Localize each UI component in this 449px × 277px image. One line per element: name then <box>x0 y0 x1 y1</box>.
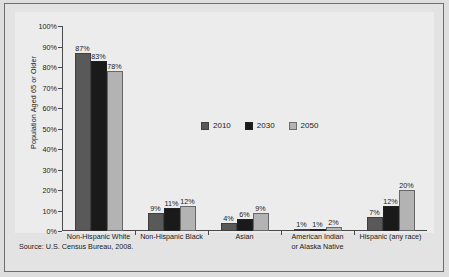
x-axis-tick-mark <box>354 231 355 235</box>
bar-value-label: 4% <box>223 214 233 223</box>
legend-swatch-icon <box>245 122 253 130</box>
bar-2010: 7% <box>367 217 383 231</box>
bar-value-label: 1% <box>312 220 322 229</box>
bar-group-bars: 9%11%12% <box>135 26 208 231</box>
legend-item-2050[interactable]: 2050 <box>289 121 319 130</box>
legend-item-2010[interactable]: 2010 <box>201 121 231 130</box>
bar-2010: 9% <box>148 213 164 231</box>
bar-2050: 2% <box>326 227 342 231</box>
bar-2010: 4% <box>221 223 237 231</box>
y-axis-tick-label: 90% <box>17 42 62 51</box>
bar-2030: 1% <box>310 229 326 231</box>
bar-2050: 12% <box>180 206 196 231</box>
y-axis-tick-label: 40% <box>17 145 62 154</box>
bar-group-bars: 87%83%78% <box>62 26 135 231</box>
y-axis-tick-label: 30% <box>17 165 62 174</box>
bar-group: 7%12%20%Hispanic (any race) <box>354 26 427 231</box>
bar-value-label: 2% <box>328 218 338 227</box>
legend-swatch-icon <box>289 122 297 130</box>
legend-label: 2010 <box>213 121 231 130</box>
chart-plot-panel: Population Aged 65 or Older 0%10%20%30%4… <box>15 12 434 233</box>
x-axis-category-label: Hispanic (any race) <box>336 232 446 242</box>
bar-2050: 78% <box>107 71 123 231</box>
bar-value-label: 12% <box>383 197 397 206</box>
legend-label: 2050 <box>301 121 319 130</box>
bar-2030: 83% <box>91 61 107 231</box>
bar-value-label: 12% <box>180 197 194 206</box>
y-axis-tick-label: 50% <box>17 124 62 133</box>
bar-value-label: 1% <box>296 220 306 229</box>
bar-2030: 12% <box>383 206 399 231</box>
y-axis-tick-label: 100% <box>17 22 62 31</box>
bar-value-label: 83% <box>91 52 105 61</box>
x-axis-category-line: Hispanic (any race) <box>336 232 446 242</box>
bar-value-label: 11% <box>165 199 179 208</box>
bar-value-label: 7% <box>369 208 379 217</box>
bar-value-label: 9% <box>255 204 265 213</box>
bar-value-label: 6% <box>239 210 249 219</box>
legend-label: 2030 <box>257 121 275 130</box>
x-axis-tick-mark <box>281 231 282 235</box>
y-axis-tick-label: 20% <box>17 186 62 195</box>
bar-value-label: 78% <box>107 62 121 71</box>
bar-2010: 1% <box>294 229 310 231</box>
source-note: Source: U.S. Census Bureau, 2008. <box>19 242 133 251</box>
y-axis-tick-label: 10% <box>17 206 62 215</box>
y-axis-tick-label: 70% <box>17 83 62 92</box>
bar-2030: 6% <box>237 219 253 231</box>
bar-2010: 87% <box>75 53 91 231</box>
bar-group-bars: 7%12%20% <box>354 26 427 231</box>
chart-frame: Population Aged 65 or Older 0%10%20%30%4… <box>4 3 444 272</box>
bar-value-label: 87% <box>75 44 89 53</box>
y-axis-tick-label: 60% <box>17 104 62 113</box>
bar-value-label: 20% <box>399 181 413 190</box>
bar-2030: 11% <box>164 208 180 231</box>
x-axis-category-line: or Alaska Native <box>263 242 373 252</box>
x-axis-tick-mark <box>208 231 209 235</box>
bar-2050: 20% <box>399 190 415 231</box>
y-axis-tick-label: 80% <box>17 63 62 72</box>
legend-swatch-icon <box>201 122 209 130</box>
chart-legend: 201020302050 <box>201 121 318 130</box>
bar-2050: 9% <box>253 213 269 231</box>
legend-item-2030[interactable]: 2030 <box>245 121 275 130</box>
bar-group: 87%83%78%Non-Hispanic White <box>62 26 135 231</box>
x-axis-tick-mark <box>135 231 136 235</box>
bar-value-label: 9% <box>150 204 160 213</box>
bar-group: 9%11%12%Non-Hispanic Black <box>135 26 208 231</box>
